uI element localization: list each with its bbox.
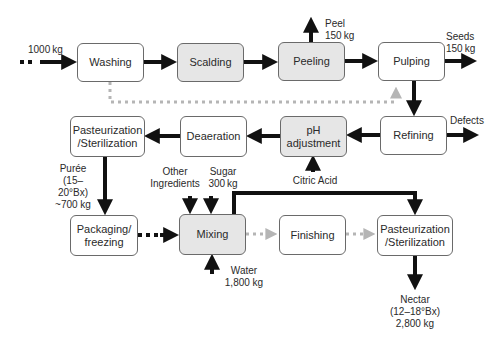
water-input-label: Water 1,800 kg [219, 265, 269, 289]
seeds-output-label: Seeds 150 kg [446, 31, 496, 55]
step-peeling[interactable]: Peeling [278, 42, 345, 81]
step-packaging-freezing[interactable]: Packaging/ freezing [70, 215, 138, 256]
step-scalding[interactable]: Scalding [177, 43, 244, 82]
citric-acid-label: Citric Acid [280, 175, 350, 187]
step-deaeration[interactable]: Deaeration [180, 116, 247, 157]
step-finishing[interactable]: Finishing [279, 215, 346, 255]
sugar-input-label: Sugar 300 kg [203, 166, 243, 190]
other-ingredients-label: Other Ingredients [147, 166, 203, 190]
step-pasteurization-puree[interactable]: Pasteurization /Sterilization [70, 116, 145, 157]
step-pasteurization-nectar[interactable]: Pasteurization /Sterilization [377, 215, 453, 256]
step-pulping[interactable]: Pulping [378, 42, 445, 81]
mixing-direct-line [234, 193, 415, 214]
bypass-dotted-line [110, 82, 396, 102]
input-mass-label: 1000 kg [28, 44, 68, 56]
nectar-output-label: Nectar (12–18°Bx) 2,800 kg [385, 294, 445, 330]
peel-output-label: Peel 150 kg [325, 18, 365, 42]
step-refining[interactable]: Refining [380, 116, 447, 155]
defects-output-label: Defects [450, 115, 500, 127]
step-ph-adjustment[interactable]: pH adjustment [280, 116, 347, 157]
puree-output-label: Purée (15–20°Bx) ~700 kg [48, 163, 98, 211]
step-mixing[interactable]: Mixing [179, 214, 246, 255]
step-washing[interactable]: Washing [77, 43, 144, 82]
